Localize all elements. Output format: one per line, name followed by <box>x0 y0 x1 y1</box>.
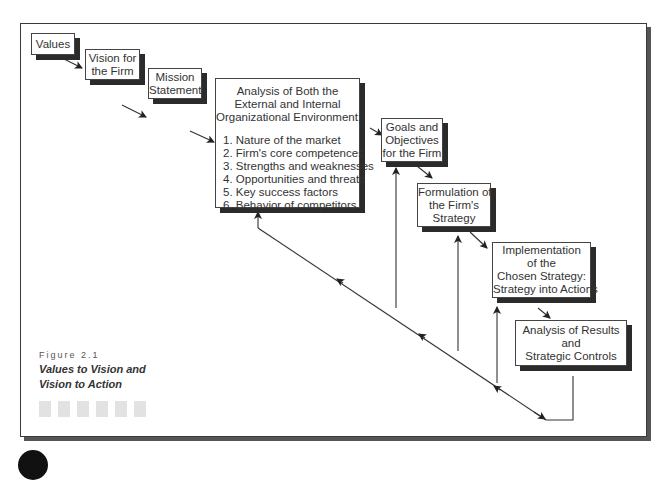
list-item: 6. Behavior of competitors <box>223 199 359 212</box>
box-strategy-formulation: Formulation of the Firm's Strategy <box>417 183 491 227</box>
decorative-square <box>134 401 146 417</box>
list-item: 4. Opportunities and threats <box>223 173 359 186</box>
box-environment-analysis: Analysis of Both the External and Intern… <box>215 78 360 208</box>
decorative-square <box>115 401 127 417</box>
analysis-factor-list: 1. Nature of the market 2. Firm's core c… <box>216 134 359 212</box>
box-values: Values <box>31 33 75 55</box>
decorative-square <box>58 401 70 417</box>
figure-caption: Figure 2.1 Values to Vision and Vision t… <box>39 350 146 392</box>
decorative-square <box>77 401 89 417</box>
figure-title: Values to Vision and Vision to Action <box>39 362 146 392</box>
decorative-square <box>39 401 51 417</box>
list-item: 5. Key success factors <box>223 186 359 199</box>
figure-number: Figure 2.1 <box>39 350 146 360</box>
list-item: 2. Firm's core competences <box>223 147 359 160</box>
page-marker-dot <box>18 450 48 480</box>
box-strategy-implementation: Implementation of the Chosen Strategy: S… <box>492 242 591 298</box>
decorative-squares <box>39 401 146 417</box>
list-item: 3. Strengths and weaknesses <box>223 160 359 173</box>
box-vision: Vision for the Firm <box>85 49 140 80</box>
decorative-square <box>96 401 108 417</box>
box-goals-objectives: Goals and Objectives for the Firm <box>381 118 443 162</box>
box-results-controls: Analysis of Results and Strategic Contro… <box>515 320 627 366</box>
list-item: 1. Nature of the market <box>223 134 359 147</box>
box-mission: Mission Statement <box>148 68 202 99</box>
